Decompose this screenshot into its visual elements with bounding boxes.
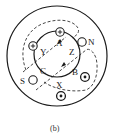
label-c: C bbox=[40, 66, 46, 76]
label-x: X bbox=[56, 80, 63, 90]
label-a: A bbox=[56, 38, 63, 48]
outer-stator-circle bbox=[7, 6, 107, 106]
conductor-y-plus bbox=[29, 42, 37, 50]
label-n: N bbox=[88, 37, 95, 47]
label-y: Y bbox=[40, 47, 47, 57]
label-s: S bbox=[20, 76, 25, 86]
conductor-a-plus bbox=[56, 28, 64, 36]
conductor-x-dot bbox=[57, 92, 66, 101]
conductor-s-empty bbox=[29, 76, 37, 84]
label-z: Z bbox=[69, 47, 75, 57]
conductor-n-empty bbox=[78, 38, 86, 46]
conductor-b-dot bbox=[81, 73, 90, 82]
figure-caption: (b) bbox=[50, 124, 60, 133]
label-b: B bbox=[72, 67, 78, 77]
machine-cross-section-diagram: A Y Z B C X N S (b) bbox=[0, 0, 114, 138]
